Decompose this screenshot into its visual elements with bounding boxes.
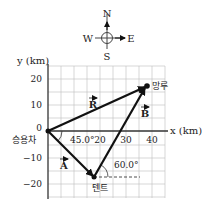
vector-label-B: B bbox=[141, 107, 149, 119]
vector-diagram: N S E W y (km) x (km) 20 10 0 −10 −20 20… bbox=[0, 0, 209, 210]
x-tick: 20 bbox=[94, 135, 106, 145]
x-tick: 30 bbox=[120, 135, 132, 145]
compass-west-label: W bbox=[83, 33, 94, 44]
vector-label-A: A bbox=[59, 159, 68, 171]
svg-text:B: B bbox=[141, 108, 149, 119]
svg-text:R: R bbox=[89, 99, 98, 110]
x-tick: 40 bbox=[146, 135, 158, 145]
angle-arc-a bbox=[58, 131, 62, 141]
tower-point bbox=[144, 83, 150, 89]
x-axis-label: x (km) bbox=[170, 125, 202, 136]
car-label: 승용차 bbox=[12, 134, 37, 145]
car-point bbox=[46, 129, 51, 134]
vector-label-R: R bbox=[89, 98, 98, 110]
compass-north-label: N bbox=[103, 8, 112, 19]
y-tick: −20 bbox=[23, 179, 42, 189]
compass-rose: N S E W bbox=[83, 8, 135, 62]
y-tick: 20 bbox=[31, 74, 43, 84]
angle-label-a: 45.0° bbox=[70, 135, 95, 145]
y-tick: −10 bbox=[23, 153, 42, 163]
tent-label: 텐트 bbox=[92, 183, 108, 193]
compass-south-label: S bbox=[104, 51, 111, 62]
angle-label-b: 60.0° bbox=[114, 160, 139, 170]
svg-text:A: A bbox=[59, 160, 68, 171]
tent-point bbox=[92, 175, 97, 180]
y-tick: 10 bbox=[31, 100, 43, 110]
y-tick: 0 bbox=[36, 123, 42, 133]
compass-east-label: E bbox=[127, 33, 134, 44]
tower-label: 망루 bbox=[152, 81, 168, 91]
y-axis-label: y (km) bbox=[16, 55, 49, 66]
